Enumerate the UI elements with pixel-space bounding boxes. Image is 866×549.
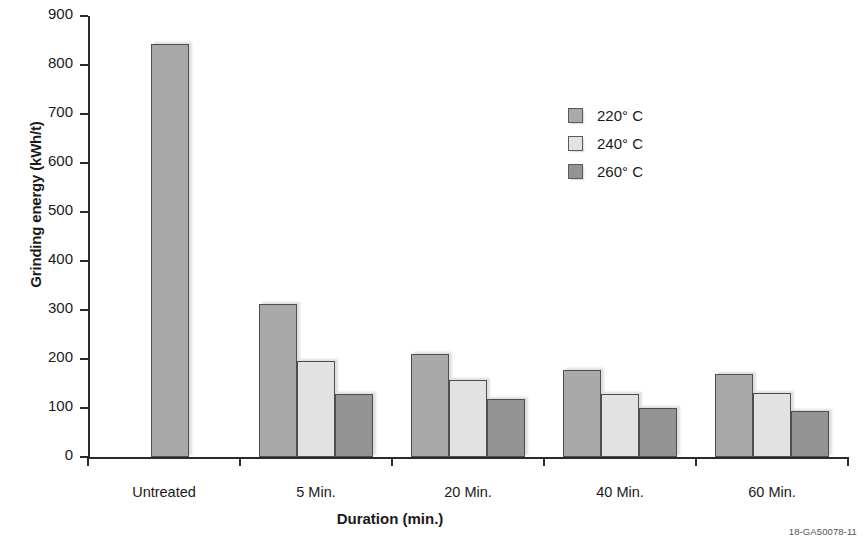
bar-chart: Grinding energy (kWh/t) 0100200300400500… [0, 0, 866, 549]
x-axis-tick [87, 457, 88, 466]
y-axis-line [88, 16, 90, 457]
x-axis-tick [543, 457, 544, 466]
y-axis-tick-label: 900 [29, 5, 73, 22]
x-axis-category-label: 5 Min. [296, 484, 336, 500]
y-axis-tick-label: 100 [29, 397, 73, 414]
legend-swatch-icon [568, 164, 583, 179]
legend: 220° C240° C260° C [568, 101, 643, 185]
x-axis-title: Duration (min.) [0, 510, 780, 527]
legend-label: 260° C [597, 163, 643, 180]
y-axis-tick-label: 500 [29, 201, 73, 218]
bar [639, 408, 677, 457]
y-axis-tick-label: 300 [29, 299, 73, 316]
y-axis-tick: 500 [80, 211, 88, 212]
x-axis-tick [847, 457, 848, 466]
y-axis-tick: 700 [80, 113, 88, 114]
y-axis-tick: 300 [80, 309, 88, 310]
bar [297, 361, 335, 457]
y-axis-tick: 800 [80, 64, 88, 65]
y-axis-tick-label: 400 [29, 250, 73, 267]
bar [563, 370, 601, 457]
y-axis-tick: 400 [80, 260, 88, 261]
bar [411, 354, 449, 457]
legend-label: 220° C [597, 107, 643, 124]
bar [753, 393, 791, 457]
legend-item: 240° C [568, 129, 643, 157]
bar [449, 380, 487, 457]
bar [601, 394, 639, 457]
x-axis-line [88, 457, 848, 459]
bar [259, 304, 297, 457]
y-axis-tick: 100 [80, 407, 88, 408]
x-axis-tick [391, 457, 392, 466]
y-axis-tick-label: 200 [29, 348, 73, 365]
y-axis-tick: 600 [80, 162, 88, 163]
y-axis-tick: 900 [80, 15, 88, 16]
bar [487, 399, 525, 457]
bar [715, 374, 753, 457]
x-axis-tick [239, 457, 240, 466]
figure-reference-code: 18-GA50078-11 [789, 526, 857, 537]
plot-area: 0100200300400500600700800900Untreated5 M… [88, 16, 848, 457]
bar [151, 44, 189, 457]
x-axis-category-label: 20 Min. [444, 484, 492, 500]
legend-swatch-icon [568, 108, 583, 123]
y-axis-tick-label: 700 [29, 103, 73, 120]
y-axis-tick-label: 600 [29, 152, 73, 169]
y-axis-tick: 200 [80, 358, 88, 359]
x-axis-category-label: 60 Min. [748, 484, 796, 500]
x-axis-category-label: Untreated [132, 484, 196, 500]
legend-swatch-icon [568, 136, 583, 151]
x-axis-category-label: 40 Min. [596, 484, 644, 500]
bar [791, 411, 829, 457]
y-axis-tick-label: 0 [29, 446, 73, 463]
legend-item: 260° C [568, 157, 643, 185]
x-axis-tick [695, 457, 696, 466]
legend-label: 240° C [597, 135, 643, 152]
bar [335, 394, 373, 457]
legend-item: 220° C [568, 101, 643, 129]
y-axis-tick-label: 800 [29, 54, 73, 71]
